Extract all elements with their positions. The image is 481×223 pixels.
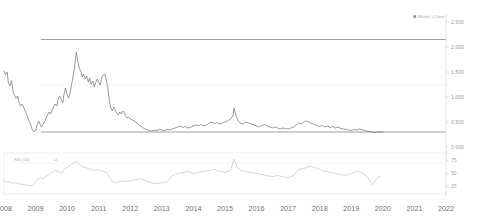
x-axis-tick-label: 2014 bbox=[185, 204, 201, 213]
x-axis-tick-label: 2020 bbox=[375, 204, 391, 213]
reference-lines-group bbox=[41, 40, 446, 133]
main-tick-label: 0.500 bbox=[451, 119, 464, 125]
chart-container: 2.5002.0001.5001.0000.5000.000 Market | … bbox=[0, 0, 481, 223]
indicator-panel-value: 14 bbox=[53, 157, 58, 162]
x-axis-tick-label: 2021 bbox=[406, 204, 422, 213]
x-axis-tick-label: 2008 bbox=[0, 204, 12, 213]
indicator-tick-label: 75 bbox=[451, 157, 457, 163]
indicator-panel-border: RSI (14)14 bbox=[4, 153, 446, 194]
main-y-axis: 2.5002.0001.5001.0000.5000.000 bbox=[446, 14, 464, 155]
main-tick-label: 1.000 bbox=[451, 94, 464, 100]
indicator-panel-label: RSI (14) bbox=[14, 157, 30, 162]
main-tick-label: 2.000 bbox=[451, 44, 464, 50]
x-axis-tick-label: 2011 bbox=[91, 204, 106, 213]
price-series-group bbox=[4, 52, 383, 133]
x-axis-tick-label: 2017 bbox=[280, 204, 296, 213]
main-tick-label: 0.000 bbox=[451, 144, 464, 150]
x-axis-tick-label: 2022 bbox=[438, 204, 454, 213]
main-tick-label: 2.500 bbox=[451, 19, 464, 25]
x-axis-tick-label: 2010 bbox=[59, 204, 75, 213]
x-axis: 2008200920102011201220132014201520162017… bbox=[0, 200, 454, 214]
indicator-tick-label: 25 bbox=[451, 183, 457, 189]
legend-label: Market | Close bbox=[418, 14, 445, 19]
x-axis-tick-label: 2016 bbox=[249, 204, 265, 213]
chart-legend: Market | Close bbox=[414, 14, 446, 19]
x-axis-tick-label: 2015 bbox=[217, 204, 233, 213]
x-axis-tick-label: 2013 bbox=[154, 204, 170, 213]
main-tick-label: 1.500 bbox=[451, 69, 464, 75]
x-axis-tick-label: 2019 bbox=[343, 204, 359, 213]
x-axis-tick-label: 2018 bbox=[312, 204, 328, 213]
legend-marker-icon bbox=[414, 15, 417, 18]
indicator-y-axis: 755025 bbox=[446, 151, 457, 196]
x-axis-tick-label: 2009 bbox=[28, 204, 44, 213]
x-axis-tick-label: 2012 bbox=[122, 204, 138, 213]
indicator-tick-label: 50 bbox=[451, 170, 457, 176]
price-line bbox=[4, 52, 383, 133]
chart-svg: 2.5002.0001.5001.0000.5000.000 Market | … bbox=[0, 0, 481, 223]
